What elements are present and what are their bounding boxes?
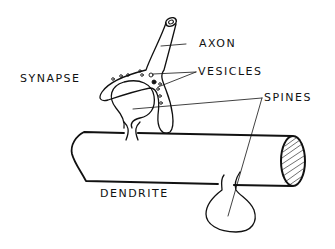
diagram-drawing (0, 0, 335, 249)
axon-leader (161, 44, 186, 46)
spines-label: SPINES (264, 91, 312, 104)
dendrite (72, 122, 305, 186)
vesicles-leader-1 (153, 72, 196, 74)
vesicles-label: VESICLES (198, 65, 262, 78)
axon (100, 16, 178, 133)
axon-label: AXON (199, 37, 236, 50)
dendrite-label: DENDRITE (100, 187, 169, 200)
diagram-canvas: AXON SYNAPSE VESICLES SPINES DENDRITE (0, 0, 335, 249)
spines-leader-1 (133, 98, 262, 109)
vesicles-leader-2 (158, 72, 196, 87)
synapse-label: SYNAPSE (20, 72, 81, 85)
lower-spine (206, 172, 255, 232)
